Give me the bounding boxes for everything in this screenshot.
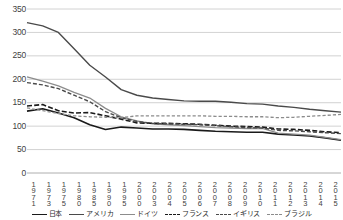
x-tick: 2000: [132, 181, 147, 209]
x-tick-digit: 3: [47, 201, 51, 207]
x-tick: 2015: [328, 181, 343, 209]
y-axis: 350300250200150100500: [0, 0, 26, 182]
plot-svg: [0, 0, 343, 182]
legend-swatch-icon: [69, 214, 84, 215]
x-tick-digit: 4: [167, 201, 171, 207]
series-line-1: [27, 23, 341, 113]
x-tick: 2004: [162, 181, 177, 209]
legend-label: アメリカ: [86, 210, 113, 218]
series-lines: [27, 23, 341, 141]
x-tick: 1985: [86, 181, 101, 209]
x-tick: 1990: [101, 181, 116, 209]
x-tick: 2014: [313, 181, 328, 209]
legend-swatch-icon: [267, 214, 282, 215]
legend-swatch-icon: [120, 214, 135, 215]
x-tick-digit: 0: [107, 201, 111, 207]
legend-item-2[interactable]: ドイツ: [120, 210, 157, 218]
legend-label: イギリス: [233, 210, 260, 218]
legend-label: 日本: [49, 210, 63, 218]
x-tick-digit: 3: [303, 201, 307, 207]
gridlines: [27, 9, 341, 173]
x-tick-digit: 4: [318, 201, 322, 207]
x-tick-digit: 0: [137, 201, 141, 207]
x-tick-digit: 0: [258, 201, 262, 207]
series-line-5: [27, 108, 341, 118]
x-tick: 1980: [71, 181, 86, 209]
legend-item-3[interactable]: フランス: [165, 210, 209, 218]
legend-label: フランス: [182, 210, 209, 218]
x-tick: 2010: [252, 181, 267, 209]
x-tick: 2007: [207, 181, 222, 209]
y-tick-label: 300: [4, 28, 26, 37]
x-tick-digit: 5: [92, 201, 96, 207]
x-tick-digit: 7: [213, 201, 217, 207]
x-tick-digit: 3: [152, 201, 156, 207]
x-tick: 2012: [283, 181, 298, 209]
x-tick: 2009: [237, 181, 252, 209]
x-tick-digit: 2: [288, 201, 292, 207]
x-tick-digit: 6: [198, 201, 202, 207]
x-tick: 2013: [298, 181, 313, 209]
y-tick-label: 100: [4, 122, 26, 131]
plot-area: [0, 0, 343, 182]
x-tick: 2011: [268, 181, 283, 209]
y-tick-label: 0: [4, 169, 26, 178]
line-chart: 350300250200150100500 197119731975198019…: [0, 0, 343, 220]
legend-swatch-icon: [216, 214, 231, 215]
y-tick-label: 150: [4, 98, 26, 107]
legend-item-1[interactable]: アメリカ: [69, 210, 113, 218]
legend-swatch-icon: [32, 214, 47, 215]
legend-label: ドイツ: [137, 210, 157, 218]
legend-item-4[interactable]: イギリス: [216, 210, 260, 218]
x-tick: 1995: [117, 181, 132, 209]
x-tick-digit: 1: [32, 201, 36, 207]
x-tick-digit: 5: [62, 201, 66, 207]
x-tick-digit: 8: [228, 201, 232, 207]
x-tick: 1975: [56, 181, 71, 209]
x-tick: 2008: [222, 181, 237, 209]
x-tick: 2003: [147, 181, 162, 209]
legend-item-0[interactable]: 日本: [32, 210, 63, 218]
x-axis: 1971197319751980198519901995200020032004…: [26, 181, 343, 209]
x-tick-digit: 9: [243, 201, 247, 207]
legend-label: ブラジル: [284, 210, 311, 218]
x-tick-digit: 1: [273, 201, 277, 207]
x-tick: 2005: [177, 181, 192, 209]
series-line-3: [27, 105, 341, 133]
y-tick-label: 250: [4, 51, 26, 60]
x-tick-digit: 0: [77, 201, 81, 207]
chart-legend: 日本アメリカドイツフランスイギリスブラジル: [0, 208, 343, 220]
x-tick-digit: 5: [333, 201, 337, 207]
series-line-2: [27, 77, 341, 140]
x-tick: 2006: [192, 181, 207, 209]
y-tick-label: 50: [4, 145, 26, 154]
x-tick: 1973: [41, 181, 56, 209]
x-tick-digit: 5: [183, 201, 187, 207]
y-tick-label: 350: [4, 5, 26, 14]
x-tick: 1971: [26, 181, 41, 209]
legend-swatch-icon: [165, 214, 180, 215]
y-tick-label: 200: [4, 75, 26, 84]
legend-item-5[interactable]: ブラジル: [267, 210, 311, 218]
x-tick-digit: 5: [122, 201, 126, 207]
